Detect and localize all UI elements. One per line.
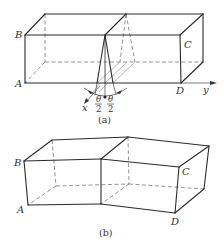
- vertex-label-c2: C: [182, 166, 190, 177]
- bending-box-diagram: x y θ 2 θ 2 B A C D (a): [0, 0, 224, 242]
- box-edges-a: [25, 14, 203, 83]
- origin-dot: [103, 95, 106, 98]
- hidden-edges-a: [25, 14, 203, 83]
- y-arrow-icon: [210, 81, 217, 85]
- vertex-label-d: D: [175, 85, 184, 96]
- caption-a: (a): [98, 114, 111, 125]
- vertex-label-d2: D: [170, 216, 179, 227]
- y-axis: y: [181, 81, 217, 95]
- theta-right-num: θ: [108, 94, 113, 104]
- vertex-label-a: A: [14, 78, 22, 89]
- vertex-label-c: C: [184, 39, 192, 50]
- theta-left-den: 2: [96, 104, 101, 114]
- theta-left-num: θ: [96, 94, 101, 104]
- theta-right-den: 2: [108, 104, 113, 114]
- figure-a: x y θ 2 θ 2 B A C D (a): [14, 14, 217, 125]
- vertex-label-b2: B: [13, 157, 21, 168]
- vertex-label-b: B: [14, 29, 22, 40]
- figure-b: B A C D (b): [13, 137, 209, 238]
- y-axis-label: y: [202, 84, 209, 95]
- x-axis-label: x: [82, 102, 88, 113]
- vertex-label-a2: A: [16, 204, 24, 215]
- caption-b: (b): [99, 227, 113, 238]
